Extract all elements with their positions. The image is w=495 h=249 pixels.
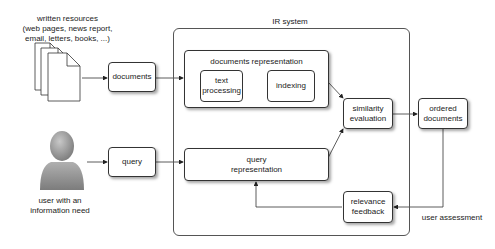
similarity-evaluation-node: similarity evaluation bbox=[343, 98, 393, 129]
user-assessment-label: user assessment bbox=[417, 213, 487, 223]
user-label: user with an information need bbox=[20, 196, 100, 216]
text-processing-node: text processing bbox=[200, 70, 243, 102]
ir-system-label: IR system bbox=[270, 17, 310, 27]
indexing-node: indexing bbox=[267, 70, 315, 102]
query-node: query bbox=[108, 147, 156, 177]
document-stack-icon bbox=[33, 42, 85, 104]
user-icon bbox=[37, 128, 87, 192]
query-representation-node: query representation bbox=[184, 148, 329, 181]
written-resources-label: written resources (web pages, news repor… bbox=[20, 14, 115, 44]
documents-node: documents bbox=[108, 62, 156, 92]
ordered-documents-node: ordered documents bbox=[418, 98, 468, 129]
relevance-feedback-node: relevance feedback bbox=[343, 191, 393, 223]
